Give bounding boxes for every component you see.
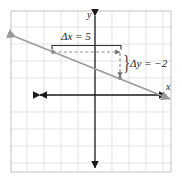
delta-y-label: Δy = −2 [130, 58, 167, 69]
y-axis-label: y [87, 10, 91, 20]
coordinate-plane-svg [0, 0, 182, 179]
delta-x-label: Δx = 5 [61, 31, 91, 42]
graph-figure: Δx = 5 } Δy = −2 y x [0, 0, 182, 179]
x-axis-label: x [166, 82, 170, 92]
plot-background [11, 11, 171, 172]
